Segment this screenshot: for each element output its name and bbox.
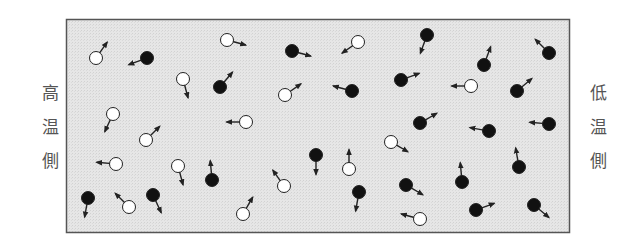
cold-particle-circle bbox=[310, 149, 323, 162]
cold-particle-circle bbox=[511, 85, 524, 98]
cold-particle-circle bbox=[346, 85, 359, 98]
hot-particle-circle bbox=[172, 160, 185, 173]
cold-particle-circle bbox=[470, 204, 483, 217]
cold-particle-circle bbox=[206, 174, 219, 187]
hot-particle-circle bbox=[237, 208, 250, 221]
cold-particle-circle bbox=[543, 47, 556, 60]
cold-particle-circle bbox=[400, 179, 413, 192]
hot-particle-circle bbox=[343, 163, 356, 176]
cold-particle-circle bbox=[414, 117, 427, 130]
cold-particle-circle bbox=[483, 125, 496, 138]
cold-particle-circle bbox=[353, 186, 366, 199]
hot-particle-circle bbox=[240, 116, 253, 129]
cold-particle-circle bbox=[543, 118, 556, 131]
hot-particle-circle bbox=[278, 180, 291, 193]
hot-particle-circle bbox=[352, 36, 365, 49]
cold-particle-circle bbox=[82, 192, 95, 205]
hot-particle-circle bbox=[414, 213, 427, 226]
cold-particle-circle bbox=[456, 176, 469, 189]
cold-particle-circle bbox=[528, 199, 541, 212]
cold-particle-circle bbox=[395, 74, 408, 87]
cold-particle-circle bbox=[147, 189, 160, 202]
cold-particle-circle bbox=[214, 81, 227, 94]
hot-particle-circle bbox=[279, 89, 292, 102]
hot-particle-circle bbox=[107, 108, 120, 121]
cold-particle-circle bbox=[478, 59, 491, 72]
hot-particle-circle bbox=[385, 136, 398, 149]
cold-particle-circle bbox=[513, 161, 526, 174]
cold-particle-circle bbox=[421, 29, 434, 42]
hot-particle-circle bbox=[90, 52, 103, 65]
hot-particle-circle bbox=[123, 201, 136, 214]
hot-particle-circle bbox=[177, 73, 190, 86]
hot-particle-circle bbox=[140, 134, 153, 147]
hot-particle-circle bbox=[110, 158, 123, 171]
cold-particle-circle bbox=[286, 45, 299, 58]
hot-particle-circle bbox=[465, 80, 478, 93]
particle-diagram bbox=[0, 0, 634, 244]
container-box bbox=[67, 20, 570, 233]
cold-particle-circle bbox=[141, 52, 154, 65]
hot-particle-circle bbox=[221, 34, 234, 47]
